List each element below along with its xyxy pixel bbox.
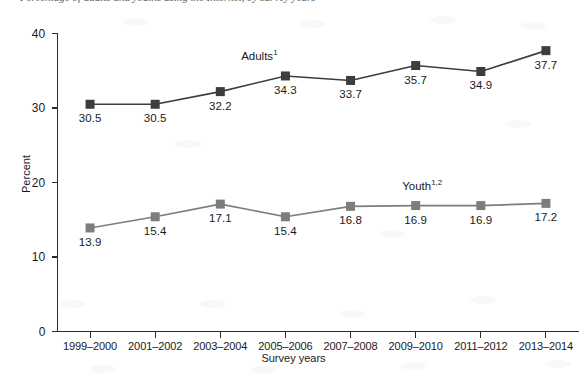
data-point-label: 35.7	[393, 74, 439, 86]
data-point-label: 16.9	[458, 214, 504, 226]
data-point-label: 34.9	[458, 79, 504, 91]
data-point-label: 16.9	[393, 214, 439, 226]
y-tick-label: 10	[6, 250, 46, 264]
data-point-marker	[216, 200, 225, 209]
data-point-label: 30.5	[67, 112, 113, 124]
x-tick-label: 2005–2006	[250, 340, 320, 352]
series-label-youth: Youth1,2	[377, 180, 467, 192]
data-point-marker	[541, 46, 550, 55]
data-point-label: 15.4	[132, 225, 178, 237]
y-tick-label: 0	[6, 325, 46, 339]
data-point-marker	[346, 76, 355, 85]
data-point-marker	[411, 61, 420, 70]
x-tick-label: 2003–2004	[185, 340, 255, 352]
data-point-label: 33.7	[328, 88, 374, 100]
data-point-label: 37.7	[523, 59, 569, 71]
x-tick-label: 1999–2000	[55, 340, 125, 352]
data-point-label: 16.8	[328, 214, 374, 226]
series-line-adults	[90, 51, 546, 105]
data-point-marker	[476, 67, 485, 76]
data-point-marker	[86, 223, 95, 232]
data-point-marker	[86, 100, 95, 109]
series-label-text: Adults	[241, 50, 273, 62]
data-point-marker	[541, 199, 550, 208]
chart-figure: Percentage of adults and youths using th…	[0, 0, 587, 374]
x-tick-label: 2011–2012	[446, 340, 516, 352]
data-point-label: 34.3	[262, 84, 308, 96]
data-point-label: 17.2	[523, 211, 569, 223]
data-point-marker	[281, 212, 290, 221]
y-tick-label: 30	[6, 101, 46, 115]
data-point-marker	[281, 71, 290, 80]
data-point-marker	[151, 100, 160, 109]
x-tick-label: 2001–2002	[120, 340, 190, 352]
data-point-label: 13.9	[67, 236, 113, 248]
data-series-group	[86, 46, 551, 232]
x-axis-ticks	[90, 332, 546, 338]
series-label-adults: Adults1	[214, 50, 304, 62]
data-point-marker	[411, 201, 420, 210]
series-label-text: Youth	[402, 180, 431, 192]
data-point-label: 30.5	[132, 112, 178, 124]
series-label-footnote-ref: 1	[273, 48, 277, 57]
y-axis-title: Percent	[20, 134, 32, 214]
data-point-marker	[216, 87, 225, 96]
y-axis-ticks	[52, 34, 58, 332]
data-point-marker	[151, 212, 160, 221]
y-tick-label: 40	[6, 27, 46, 41]
data-point-label: 32.2	[197, 100, 243, 112]
x-axis-title: Survey years	[0, 352, 587, 364]
x-tick-label: 2007–2008	[316, 340, 386, 352]
x-tick-label: 2013–2014	[511, 340, 581, 352]
data-point-label: 15.4	[262, 225, 308, 237]
data-point-marker	[476, 201, 485, 210]
data-point-label: 17.1	[197, 212, 243, 224]
series-label-footnote-ref: 1,2	[431, 178, 442, 187]
data-point-marker	[346, 202, 355, 211]
x-tick-label: 2009–2010	[381, 340, 451, 352]
